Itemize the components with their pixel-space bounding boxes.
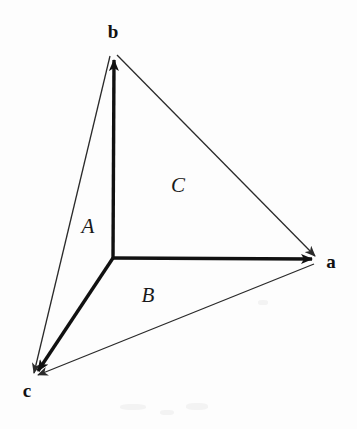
vertex-label-a: a <box>326 252 336 271</box>
vector-triangle-figure: a b c A B C <box>0 0 357 429</box>
vertex-label-b: b <box>108 22 119 41</box>
vector-origin-to-c <box>38 258 113 371</box>
face-label-C: C <box>171 175 185 196</box>
triangle-outline <box>34 55 315 375</box>
edge-b-to-c <box>34 56 110 373</box>
vector-origin-to-b <box>113 60 114 258</box>
vertex-label-c: c <box>23 381 31 400</box>
diagram-canvas <box>0 0 357 429</box>
vector-group <box>38 60 312 371</box>
vector-origin-to-a <box>113 258 312 259</box>
edge-b-to-a <box>117 55 315 256</box>
edge-a-to-c <box>38 264 314 375</box>
face-label-B: B <box>142 285 155 306</box>
face-label-A: A <box>82 216 95 237</box>
